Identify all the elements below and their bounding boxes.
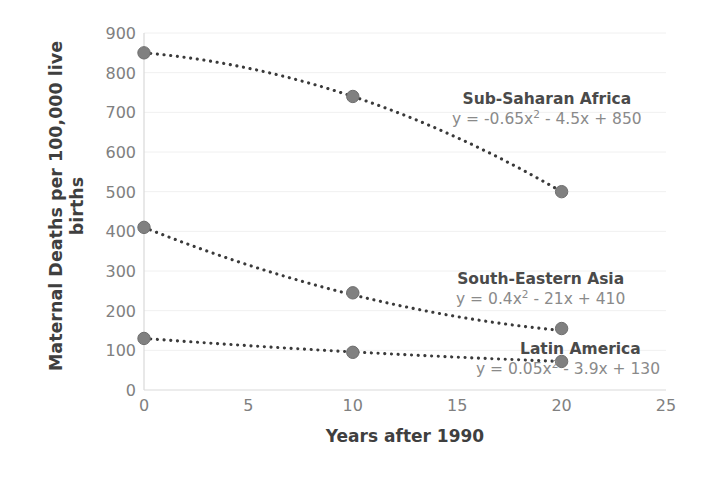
x-tick-label: 15 [427,396,487,415]
series-annotation-latin-america: Latin America y = 0.05x2 - 3.9x + 130 [476,340,660,378]
y-tick-label: 500 [90,182,136,201]
y-axis-tick-labels: 0100200300400500600700800900 [86,33,136,390]
data-point-marker [555,322,567,334]
data-point-marker [347,287,359,299]
series-equation: y = 0.4x2 - 21x + 410 [456,290,625,308]
y-axis-title-line-1: Maternal Deaths per 100,000 live [46,41,67,371]
equation-exponent: 2 [533,108,540,120]
series-annotation-south-eastern-asia: South-Eastern Asia y = 0.4x2 - 21x + 410 [456,270,625,308]
equation-prefix: y = 0.4x [456,290,522,308]
chart-figure: Maternal Deaths per 100,000 live births … [0,0,721,478]
series-label: Latin America [476,340,660,358]
series-label: Sub-Saharan Africa [452,90,642,108]
equation-prefix: y = 0.05x [476,360,552,378]
series-equation: y = 0.05x2 - 3.9x + 130 [476,360,660,378]
y-tick-label: 100 [90,341,136,360]
y-tick-label: 200 [90,301,136,320]
equation-suffix: - 4.5x + 850 [540,110,642,128]
x-tick-label: 0 [114,396,174,415]
series-equation: y = -0.65x2 - 4.5x + 850 [452,110,642,128]
plot-area [144,33,666,390]
series-label: South-Eastern Asia [456,270,625,288]
data-point-marker [138,332,150,344]
y-tick-label: 800 [90,63,136,82]
equation-suffix: - 21x + 410 [529,290,626,308]
y-tick-label: 900 [90,24,136,43]
plot-svg [144,33,666,390]
data-point-marker [138,47,150,59]
x-tick-label: 5 [218,396,278,415]
x-axis-tick-labels: 0510152025 [144,396,666,420]
y-tick-label: 300 [90,262,136,281]
y-tick-label: 600 [90,143,136,162]
y-tick-label: 700 [90,103,136,122]
equation-suffix: - 3.9x + 130 [558,360,660,378]
x-axis-title: Years after 1990 [144,426,666,446]
x-tick-label: 25 [636,396,696,415]
x-tick-label: 10 [323,396,383,415]
data-point-marker [138,221,150,233]
data-point-marker [347,346,359,358]
y-tick-label: 400 [90,222,136,241]
equation-exponent: 2 [522,288,529,300]
series-annotation-sub-saharan-africa: Sub-Saharan Africa y = -0.65x2 - 4.5x + … [452,90,642,128]
equation-prefix: y = -0.65x [452,110,533,128]
x-tick-label: 20 [532,396,592,415]
data-point-marker [347,90,359,102]
data-point-marker [555,185,567,197]
